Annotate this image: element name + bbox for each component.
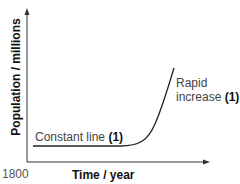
constant-line-label: Constant line (1) — [35, 130, 123, 144]
x-axis-label: Time / year — [72, 168, 134, 182]
y-axis-label: Population / millions — [9, 17, 23, 137]
constant-line-mark: (1) — [108, 130, 123, 144]
rapid-increase-line1: Rapid — [176, 76, 239, 90]
x-axis-arrow-icon — [203, 160, 210, 165]
constant-line-text: Constant line — [35, 130, 108, 144]
population-graph: Population / millions Constant line (1) … — [0, 0, 240, 184]
rapid-increase-label: Rapid increase (1) — [176, 76, 239, 104]
y-axis-arrow-icon — [25, 8, 30, 15]
rapid-increase-line2: increase — [176, 90, 225, 104]
rapid-increase-mark: (1) — [225, 90, 240, 104]
x-tick-1800: 1800 — [2, 167, 29, 181]
